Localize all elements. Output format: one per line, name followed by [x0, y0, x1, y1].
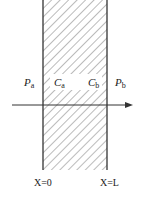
label-cb: Cb — [88, 77, 99, 90]
label-pa: Pa — [24, 77, 34, 90]
label-x0: X=0 — [34, 178, 52, 188]
label-pb: Pb — [115, 77, 126, 90]
arrow-head-icon — [125, 102, 133, 108]
label-ca: Ca — [54, 77, 65, 90]
label-xl: X=L — [100, 178, 119, 188]
membrane-diagram — [0, 0, 142, 198]
